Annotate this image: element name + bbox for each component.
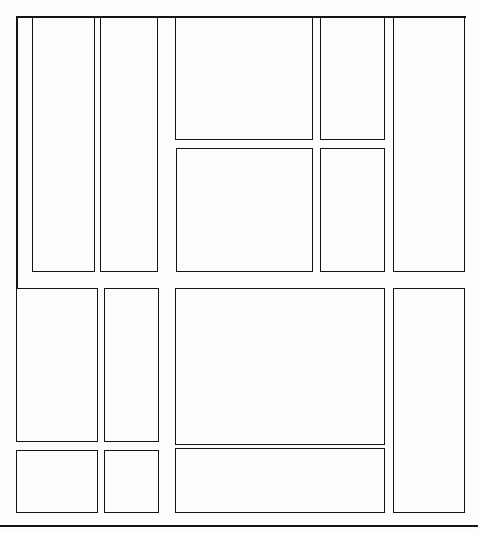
layout-segmentation-canvas: Column 1 text blockColumn 2 text blockCe… — [0, 0, 478, 533]
text-region-r12[interactable]: Footer column 1 block — [16, 450, 98, 513]
text-region-r7[interactable]: Far right tall text block — [393, 16, 465, 272]
footer-separator-rule — [0, 525, 478, 527]
text-region-r6[interactable]: Right inner lower text block — [320, 148, 385, 272]
text-region-r11[interactable]: Lower far right tall block — [393, 288, 465, 513]
text-region-r8[interactable]: Lower column 1 text block — [16, 288, 98, 442]
text-region-r1[interactable]: Column 1 text block — [32, 16, 95, 272]
text-region-r10[interactable]: Main body text block — [175, 288, 385, 445]
text-region-r9[interactable]: Lower column 2 text block — [104, 288, 159, 442]
text-region-r4[interactable]: Center lower text block — [176, 148, 313, 272]
text-region-r2[interactable]: Column 2 text block — [100, 16, 158, 272]
frame-line-upper-vertical — [16, 16, 18, 289]
text-region-r5[interactable]: Right inner upper text block — [320, 16, 385, 140]
text-region-r3[interactable]: Center upper text block — [175, 16, 313, 140]
text-region-r13[interactable]: Footer column 2 block — [104, 450, 159, 513]
text-region-r14[interactable]: Footer wide body block — [175, 448, 385, 513]
